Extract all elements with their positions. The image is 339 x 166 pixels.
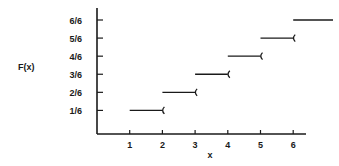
open-endpoint-icon xyxy=(261,53,263,60)
y-axis-label: F(x) xyxy=(18,62,35,72)
y-ticks: 1/62/63/64/65/66/6 xyxy=(69,16,103,116)
y-tick-label: 5/6 xyxy=(69,34,82,44)
x-tick-label: 6 xyxy=(291,140,296,150)
x-tick-label: 2 xyxy=(160,140,165,150)
y-tick-label: 1/6 xyxy=(69,106,82,116)
x-tick-label: 1 xyxy=(127,140,132,150)
step-segments xyxy=(130,20,333,114)
x-tick-label: 3 xyxy=(193,140,198,150)
y-tick-label: 6/6 xyxy=(69,16,82,26)
open-endpoint-icon xyxy=(195,89,197,96)
x-ticks: 123456 xyxy=(127,130,296,150)
open-endpoint-icon xyxy=(228,71,230,78)
x-tick-label: 5 xyxy=(258,140,263,150)
y-tick-label: 2/6 xyxy=(69,88,82,98)
y-tick-label: 3/6 xyxy=(69,70,82,80)
axes xyxy=(97,8,306,134)
x-tick-label: 4 xyxy=(225,140,230,150)
open-endpoint-icon xyxy=(163,107,165,114)
cdf-step-chart: 1/62/63/64/65/66/6 123456 F(x) x xyxy=(0,0,339,166)
y-tick-label: 4/6 xyxy=(69,52,82,62)
open-endpoint-icon xyxy=(293,35,295,42)
x-axis-label: x xyxy=(207,150,212,160)
